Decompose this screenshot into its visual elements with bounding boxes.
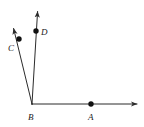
- point-dot-d: [33, 28, 38, 33]
- point-dot-a: [88, 101, 93, 106]
- point-dot-c: [16, 36, 21, 41]
- labels-group: B A C D: [8, 27, 94, 122]
- point-label-a: A: [87, 112, 94, 122]
- point-label-d: D: [40, 27, 48, 37]
- points-group: [16, 28, 93, 106]
- rays-group: [14, 12, 137, 105]
- point-label-c: C: [8, 43, 15, 53]
- ray-bd-line: [32, 12, 38, 105]
- vertex-dot-b: [31, 103, 33, 105]
- ray-bc-line: [14, 29, 32, 105]
- point-label-b: B: [28, 112, 34, 122]
- geometry-figure: B A C D: [0, 0, 144, 127]
- geometry-canvas: B A C D: [0, 0, 144, 127]
